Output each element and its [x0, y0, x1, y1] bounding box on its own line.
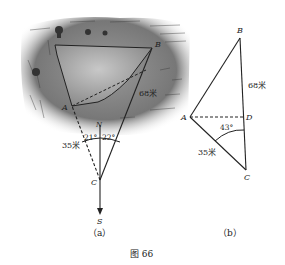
panel-b: B A D C 68米 43° 35米 （b）	[180, 26, 266, 238]
label-S: S	[97, 217, 103, 226]
label-N: N	[95, 121, 103, 129]
figure-caption: 图 66	[130, 249, 154, 259]
label-B-b: B	[236, 26, 243, 35]
caption-b: （b）	[218, 228, 242, 238]
distance-68m-a: 68米	[139, 88, 157, 98]
caption-a: （a）	[88, 228, 111, 238]
distance-35m-b: 35米	[198, 147, 216, 157]
distance-35m-a: 35米	[62, 140, 80, 150]
line-AB	[190, 38, 240, 117]
label-C: C	[91, 178, 97, 187]
label-A: A	[61, 103, 68, 112]
distance-68m-b: 68米	[248, 80, 266, 90]
line-BC	[240, 38, 246, 170]
label-C-b: C	[244, 173, 250, 182]
angle-22: 22°	[102, 133, 116, 142]
angle-21: 21°	[84, 133, 98, 142]
south-arrow-icon	[97, 208, 103, 215]
label-B: B	[154, 40, 161, 49]
figure-66: A B N C S 68米 21° 22° 35米 （a） B A D C 68…	[0, 0, 285, 265]
label-D-b: D	[245, 113, 253, 122]
panel-a: A B N C S 68米 21° 22° 35米 （a）	[21, 17, 190, 238]
angle-43: 43°	[220, 123, 234, 132]
label-A-b: A	[180, 113, 187, 122]
line-AC	[190, 117, 246, 170]
